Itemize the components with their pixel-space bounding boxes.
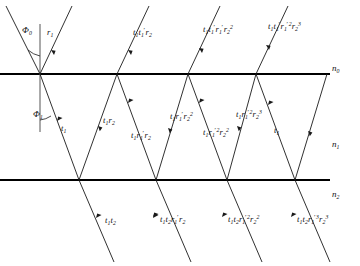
diagram-canvas [0, 0, 360, 266]
reflected-ray-4 [256, 6, 288, 74]
angle-label-phi-1: Φ1 [33, 110, 43, 119]
internal-beam-label-up-3: t1r1′2r23 [236, 110, 262, 119]
internal-ray-up-4 [295, 74, 327, 180]
transmitted-beam-label-4: t1t2r1′3r23 [297, 215, 328, 224]
reflected-ray-1 [40, 6, 72, 74]
reflected-ray-2 [117, 6, 149, 74]
transmitted-beam-label-2: t1t2r1′r2 [160, 215, 185, 224]
internal-ray-up-1 [79, 74, 117, 180]
interference-diagram: Φ0 Φ1 n0 n1 n2 r1 t1t1′r2 t1t1′r1′r22 t1… [0, 0, 360, 266]
transmitted-beam-label-1: t1t2 [105, 216, 116, 225]
internal-ray-down-1 [40, 74, 79, 180]
internal-beam-label-down-2: t1r1′r2 [131, 131, 151, 140]
internal-beam-label-down-1: t1 [61, 124, 66, 133]
incident-ray [6, 6, 40, 74]
transmitted-beam-label-3: t1t2r1′2r22 [228, 215, 259, 224]
reflected-beam-label-3: t1t1′r1′r22 [203, 25, 233, 34]
reflected-ray-3 [188, 6, 220, 74]
internal-ray-up-2 [156, 74, 188, 180]
internal-beam-label-up-2: t1r1′r22 [170, 112, 193, 121]
internal-beam-label-down-4: t1 [274, 126, 279, 135]
reflected-beam-label-1: r1 [47, 28, 53, 37]
internal-ray-up-3 [227, 74, 256, 180]
internal-beam-label-up-1: t1r2 [103, 116, 115, 125]
internal-beam-label-down-3: t1r1′2r22 [203, 128, 229, 137]
medium-label-n-2: n2 [332, 190, 340, 199]
medium-label-n-1: n1 [332, 140, 340, 149]
angle-label-phi-0: Φ0 [22, 26, 32, 35]
reflected-beam-label-2: t1t1′r2 [133, 28, 152, 37]
reflected-beam-label-4: t1t1′r1′2r23 [268, 22, 301, 31]
medium-label-n-0: n0 [332, 64, 340, 73]
internal-ray-down-2 [117, 74, 156, 180]
